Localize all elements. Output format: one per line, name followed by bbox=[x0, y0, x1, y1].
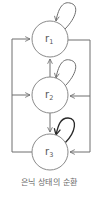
diagram-caption: 은닉 상태의 순환 bbox=[0, 176, 98, 187]
node-r3: r3 bbox=[32, 134, 68, 170]
left-feedback-edges bbox=[12, 39, 32, 152]
hidden-state-cycle-diagram: r1 r2 r3 bbox=[0, 0, 98, 176]
node-r1: r1 bbox=[32, 21, 68, 57]
node-r2: r2 bbox=[32, 77, 68, 113]
